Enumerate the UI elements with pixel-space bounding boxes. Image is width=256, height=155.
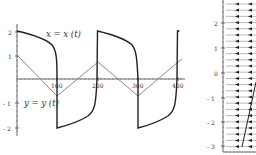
arrow-icon xyxy=(235,114,239,117)
arrow-icon xyxy=(235,71,239,74)
arrow-icon xyxy=(248,89,252,92)
y-tick-label: - 3 xyxy=(207,143,215,150)
arrow-icon xyxy=(248,2,252,5)
arrow-icon xyxy=(248,15,252,18)
y-tick-label: - 2 xyxy=(207,119,215,126)
arrow-icon xyxy=(235,83,239,86)
arrow-icon xyxy=(235,139,239,142)
arrow-icon xyxy=(235,108,239,111)
arrow-icon xyxy=(235,95,239,98)
y-tick-label: 1 xyxy=(8,53,12,60)
arrow-icon xyxy=(248,27,252,30)
arrow-icon xyxy=(235,21,239,24)
y-tick-label: 2 xyxy=(214,20,218,27)
arrow-icon xyxy=(235,52,239,55)
y-tick-label: - 1 xyxy=(207,95,215,102)
x-tick-label: 200 xyxy=(92,82,104,89)
arrow-icon xyxy=(235,126,239,129)
arrow-icon xyxy=(248,21,252,24)
figure: 10020030040021- 1- 2 x = x (t) y = y (t)… xyxy=(0,0,256,155)
y-tick-label: - 1 xyxy=(3,100,11,107)
arrow-icon xyxy=(235,102,239,105)
arrow-icon xyxy=(235,46,239,49)
arrow-icon xyxy=(248,120,252,123)
arrow-icon xyxy=(235,77,239,80)
right-tick-labels: 210- 1- 2- 3 xyxy=(207,20,225,150)
arrow-icon xyxy=(235,58,239,61)
arrow-icon xyxy=(248,64,252,67)
arrow-icon xyxy=(248,95,252,98)
arrow-icon xyxy=(235,9,239,12)
y-of-t-curve xyxy=(17,55,182,96)
arrow-icon xyxy=(235,133,239,136)
direction-field-arrows xyxy=(226,2,256,148)
arrow-icon xyxy=(235,2,239,5)
arrow-icon xyxy=(235,27,239,30)
y-tick-label: - 2 xyxy=(3,125,11,132)
x-tick-label: 400 xyxy=(172,82,184,89)
arrow-icon xyxy=(235,145,239,148)
left-minor-ticks xyxy=(16,26,181,131)
arrow-icon xyxy=(248,77,252,80)
arrow-icon xyxy=(248,71,252,74)
arrow-icon xyxy=(248,133,252,136)
y-tick-label: 1 xyxy=(214,45,218,52)
arrow-icon xyxy=(248,83,252,86)
arrow-icon xyxy=(248,40,252,43)
arrow-icon xyxy=(248,139,252,142)
arrow-icon xyxy=(248,145,252,148)
arrow-icon xyxy=(248,9,252,12)
arrow-icon xyxy=(248,52,252,55)
arrow-icon xyxy=(235,33,239,36)
y-tick-label: 0 xyxy=(214,70,218,77)
x-of-t-label: x = x (t) xyxy=(46,29,81,39)
arrow-icon xyxy=(248,126,252,129)
arrow-icon xyxy=(235,40,239,43)
arrow-icon xyxy=(235,89,239,92)
arrow-icon xyxy=(235,15,239,18)
y-of-t-label: y = y (t) xyxy=(23,98,59,108)
arrow-icon xyxy=(248,33,252,36)
arrow-icon xyxy=(248,46,252,49)
arrow-icon xyxy=(235,64,239,67)
right-direction-field-plot: 210- 1- 2- 3 xyxy=(207,0,256,153)
arrow-icon xyxy=(248,58,252,61)
nullcline xyxy=(242,82,256,147)
y-tick-label: 2 xyxy=(8,29,12,36)
left-time-series-plot: 10020030040021- 1- 2 x = x (t) y = y (t) xyxy=(3,24,185,136)
arrow-icon xyxy=(235,120,239,123)
